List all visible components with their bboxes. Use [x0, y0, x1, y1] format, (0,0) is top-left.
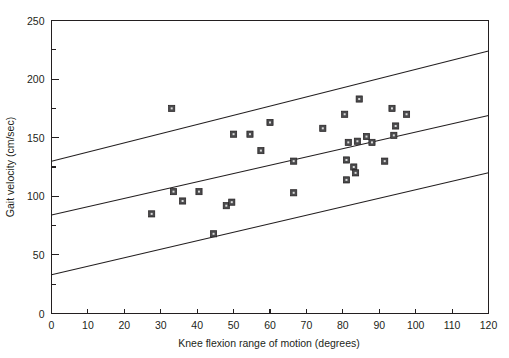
data-point [352, 170, 358, 176]
data-point [356, 96, 362, 102]
y-tick-label-200: 200 [27, 73, 45, 85]
data-point [267, 119, 273, 125]
x-tick-label-120: 120 [480, 319, 498, 331]
marker-center [293, 160, 295, 162]
data-point [382, 158, 388, 164]
data-point [345, 139, 351, 145]
x-tick-label-50: 50 [228, 319, 240, 331]
marker-center [347, 141, 349, 143]
x-tick-label-20: 20 [118, 319, 130, 331]
marker-center [322, 127, 324, 129]
marker-center [356, 140, 358, 142]
marker-center [345, 159, 347, 161]
data-point [389, 105, 395, 111]
data-point [170, 189, 176, 195]
data-point [230, 131, 236, 137]
data-point [403, 111, 409, 117]
marker-center [225, 205, 227, 207]
data-point [291, 158, 297, 164]
data-point [363, 133, 369, 139]
marker-center [231, 201, 233, 203]
x-tick-label-70: 70 [301, 319, 313, 331]
marker-center [198, 191, 200, 193]
y-axis-tick-labels: 050100150200250 [27, 15, 45, 320]
data-point [391, 132, 397, 138]
data-point [229, 199, 235, 205]
marker-center [406, 113, 408, 115]
data-point [169, 105, 175, 111]
y-axis-ticks [52, 21, 59, 314]
y-tick-label-0: 0 [39, 308, 45, 320]
data-point [180, 198, 186, 204]
marker-center [371, 141, 373, 143]
data-point [393, 123, 399, 129]
plot-frame-rect [52, 21, 489, 314]
data-point [343, 177, 349, 183]
marker-center [151, 213, 153, 215]
marker-center [269, 121, 271, 123]
data-point [258, 147, 264, 153]
plot-frame [52, 21, 489, 314]
y-tick-label-150: 150 [27, 132, 45, 144]
marker-center [171, 107, 173, 109]
marker-center [293, 192, 295, 194]
y-tick-label-250: 250 [27, 15, 45, 27]
marker-center [358, 98, 360, 100]
marker-center [355, 172, 357, 174]
x-tick-label-30: 30 [155, 319, 167, 331]
data-point-markers [149, 96, 410, 237]
plot-canvas: 0102030405060708090100110120 05010015020… [0, 0, 509, 358]
data-point [369, 139, 375, 145]
y-tick-label-100: 100 [27, 190, 45, 202]
x-axis-ticks [52, 309, 489, 314]
marker-center [182, 200, 184, 202]
x-axis-tick-labels: 0102030405060708090100110120 [49, 319, 498, 331]
x-axis-title: Knee flexion range of motion (degrees) [178, 337, 360, 349]
x-tick-label-90: 90 [373, 319, 385, 331]
marker-center [391, 107, 393, 109]
marker-center [249, 133, 251, 135]
data-point [149, 211, 155, 217]
x-tick-label-10: 10 [82, 319, 94, 331]
marker-center [260, 150, 262, 152]
scatter-plot-figure: 0102030405060708090100110120 05010015020… [0, 0, 509, 358]
x-tick-label-0: 0 [49, 319, 55, 331]
marker-center [395, 125, 397, 127]
marker-center [353, 166, 355, 168]
data-point [351, 164, 357, 170]
marker-center [233, 133, 235, 135]
x-tick-label-100: 100 [407, 319, 425, 331]
data-point [210, 231, 216, 237]
x-tick-label-110: 110 [444, 319, 461, 331]
x-tick-label-80: 80 [337, 319, 349, 331]
y-axis-title: Gait velocity (cm/sec) [4, 117, 16, 217]
data-point [196, 189, 202, 195]
regression-line [52, 115, 489, 215]
marker-center [393, 134, 395, 136]
marker-center [345, 179, 347, 181]
data-point [342, 111, 348, 117]
data-point [343, 157, 349, 163]
y-tick-label-50: 50 [33, 249, 45, 261]
data-point [247, 131, 253, 137]
marker-center [344, 113, 346, 115]
marker-center [384, 160, 386, 162]
data-point [354, 138, 360, 144]
x-tick-label-60: 60 [264, 319, 276, 331]
marker-center [173, 191, 175, 193]
data-point [291, 190, 297, 196]
lower-confidence-band [52, 173, 489, 275]
upper-confidence-band [52, 51, 489, 161]
x-tick-label-40: 40 [191, 319, 203, 331]
data-point [320, 125, 326, 131]
regression-and-confidence-bands [52, 51, 489, 275]
marker-center [213, 233, 215, 235]
marker-center [366, 136, 368, 138]
